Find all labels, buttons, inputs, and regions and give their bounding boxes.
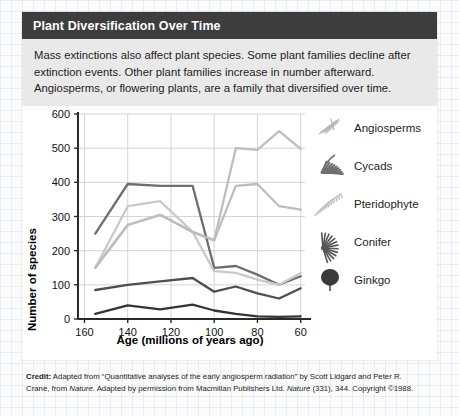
card-header: Plant Diversification Over Time	[22, 12, 437, 39]
credit-italic-1: Nature	[69, 384, 92, 393]
credit-italic-2: Nature	[287, 384, 310, 393]
x-tick-60: 60	[295, 326, 307, 338]
series-line-ginkgo	[95, 304, 300, 316]
y-axis-tick-labels: 0100200300400500600	[52, 108, 70, 325]
x-tick-160: 160	[75, 326, 93, 338]
y-axis-title: Number of species	[26, 228, 38, 331]
y-tick-300: 300	[52, 210, 70, 222]
legend-label-pteridophyte: Pteridophyte	[354, 198, 419, 210]
y-tick-500: 500	[52, 142, 70, 154]
credit-text-2: . Adapted by permission from Macmillan P…	[93, 384, 287, 393]
y-tick-400: 400	[52, 176, 70, 188]
chart-legend: AngiospermsCycadsPteridophyteConiferGink…	[315, 118, 421, 291]
page-title: Plant Diversification Over Time	[33, 19, 221, 33]
credit-label: Credit:	[26, 372, 51, 381]
credit-note: Credit: Adapted from “Quantitative analy…	[26, 371, 426, 395]
angiosperm-leaf-icon	[319, 118, 341, 134]
chart-axes	[74, 112, 311, 323]
legend-label-cycads: Cycads	[354, 160, 393, 172]
cycad-frond-icon	[321, 155, 343, 174]
chart-container: 0100200300400500600 1601401201008060 Num…	[22, 106, 437, 351]
info-card: Plant Diversification Over Time Mass ext…	[22, 12, 437, 360]
y-tick-0: 0	[64, 313, 70, 325]
intro-paragraph: Mass extinctions also affect plant speci…	[22, 39, 437, 106]
y-tick-600: 600	[52, 108, 70, 120]
legend-label-angiosperms: Angiosperms	[354, 122, 421, 134]
legend-item-cycads: Cycads	[321, 155, 393, 174]
y-tick-200: 200	[52, 244, 70, 256]
conifer-branch-icon	[321, 233, 338, 262]
series-line-angiosperms-upper	[95, 131, 300, 268]
legend-item-conifer: Conifer	[321, 233, 391, 262]
fern-frond-icon	[315, 194, 342, 216]
ginkgo-leaf-icon	[321, 269, 339, 291]
legend-label-conifer: Conifer	[354, 236, 391, 248]
series-line-pteridophyte	[95, 201, 300, 285]
credit-text-3: (331), 344. Copyright ©1988.	[310, 384, 413, 393]
y-tick-100: 100	[52, 279, 70, 291]
legend-item-pteridophyte: Pteridophyte	[315, 194, 419, 216]
legend-item-angiosperms: Angiosperms	[319, 118, 421, 134]
legend-item-ginkgo: Ginkgo	[321, 269, 390, 291]
x-axis-title: Age (millions of years ago)	[117, 334, 264, 346]
chart-series-lines	[95, 131, 300, 317]
legend-label-ginkgo: Ginkgo	[354, 274, 390, 286]
species-diversity-line-chart: 0100200300400500600 1601401201008060 Num…	[22, 106, 437, 351]
